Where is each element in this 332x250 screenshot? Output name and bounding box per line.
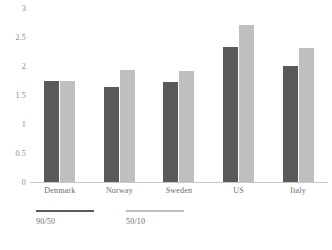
chart-legend: 90/5050/10	[36, 210, 200, 226]
bar-group	[268, 8, 328, 182]
y-axis-tick-label: 1	[22, 120, 26, 129]
category-label-sweden: Sweden	[149, 186, 209, 195]
y-axis-tick-label: 3	[22, 4, 26, 13]
bar	[60, 81, 75, 183]
category-label-italy: Italy	[268, 186, 328, 195]
category-label-denmark: Denmark	[30, 186, 90, 195]
bar	[223, 47, 238, 182]
bar-groups	[30, 8, 328, 182]
y-axis-tick-label: 2	[22, 62, 26, 71]
bar	[299, 48, 314, 182]
bar	[163, 82, 178, 182]
legend-swatch-icon	[126, 210, 184, 212]
category-axis-labels: DenmarkNorwaySwedenUSItaly	[30, 186, 328, 195]
bar	[179, 71, 194, 182]
y-axis-tick-label: 1.5	[15, 91, 26, 100]
legend-item-50-10[interactable]: 50/10	[126, 210, 200, 226]
y-axis: 32.521.510.50	[0, 0, 30, 190]
bar-group	[90, 8, 150, 182]
y-axis-tick-label: 2.5	[15, 33, 26, 42]
bar	[120, 70, 135, 182]
category-label-us: US	[209, 186, 269, 195]
category-label-norway: Norway	[90, 186, 150, 195]
legend-label: 50/10	[126, 217, 200, 226]
bar	[283, 66, 298, 182]
bar	[104, 87, 119, 182]
y-axis-tick-label: 0	[22, 178, 26, 187]
bar	[239, 25, 254, 182]
x-axis-baseline	[30, 182, 328, 183]
bar-chart: 32.521.510.50 DenmarkNorwaySwedenUSItaly…	[0, 0, 332, 250]
y-axis-tick-label: 0.5	[15, 149, 26, 158]
bar	[44, 81, 59, 183]
bar-group	[149, 8, 209, 182]
legend-label: 90/50	[36, 217, 110, 226]
bar-group	[209, 8, 269, 182]
legend-item-90-50[interactable]: 90/50	[36, 210, 110, 226]
bar-group	[30, 8, 90, 182]
legend-swatch-icon	[36, 210, 94, 212]
